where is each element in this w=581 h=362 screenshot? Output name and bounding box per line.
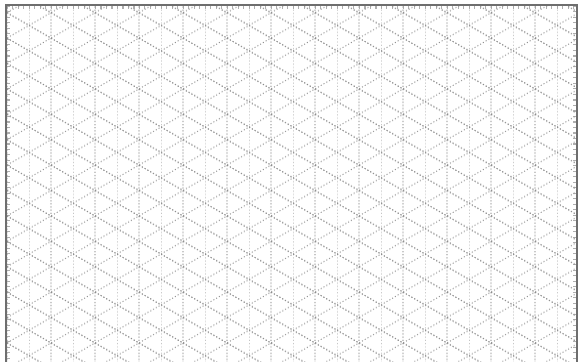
right-ruler-ticks <box>573 6 576 362</box>
left-ruler-ticks <box>7 6 10 362</box>
isometric-grid <box>0 0 581 362</box>
top-ruler-ticks <box>7 6 576 9</box>
grid-pattern <box>7 6 576 362</box>
isometric-grid-page <box>0 0 581 362</box>
